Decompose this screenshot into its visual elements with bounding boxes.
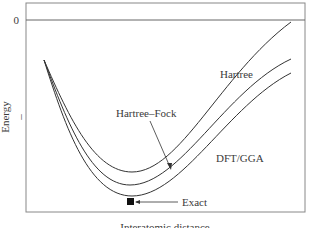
curve-hartree [44, 22, 291, 172]
exact-arrowhead [135, 200, 140, 204]
y-tick-minus: – [14, 114, 26, 121]
label-hartree-fock: Hartree–Fock [116, 107, 177, 119]
curve-dft-gga [44, 60, 291, 196]
y-axis-label: Energy [0, 101, 11, 133]
x-axis-label: Interatomic distance [120, 221, 210, 228]
curve-hartree-fock [44, 59, 291, 185]
label-hartree: Hartree [220, 68, 253, 80]
label-dft-gga: DFT/GGA [216, 152, 264, 164]
label-exact: Exact [182, 196, 207, 208]
hartree-fock-pointer [150, 121, 170, 167]
energy-diagram: 0 – Energy Hartree Hartree–Fock DFT/GGA … [0, 0, 309, 228]
exact-marker [127, 198, 134, 205]
y-tick-zero: 0 [14, 14, 20, 26]
